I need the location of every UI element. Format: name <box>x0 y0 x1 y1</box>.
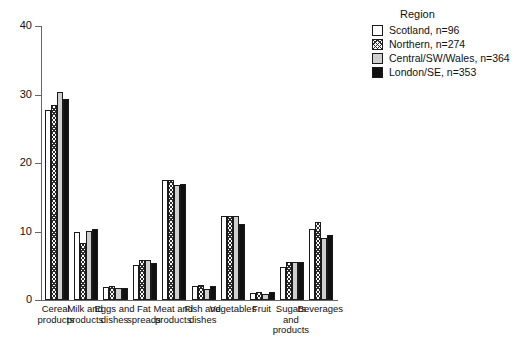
y-tick-label: 10 <box>0 226 32 237</box>
bar-london <box>180 184 186 300</box>
y-tick-label: 40 <box>0 20 32 31</box>
legend-item-central[interactable]: Central/SW/Wales, n=364 <box>372 52 517 64</box>
bar-group <box>309 26 333 300</box>
legend-title: Region <box>400 8 517 21</box>
bar-london <box>210 286 216 300</box>
bar-london <box>298 262 304 300</box>
bar-london <box>239 224 245 300</box>
legend-item-scotland[interactable]: Scotland, n=96 <box>372 24 517 36</box>
legend-swatch-icon <box>372 53 383 64</box>
y-tick-label: 20 <box>0 157 32 168</box>
x-axis-line <box>41 300 338 301</box>
bar-london <box>269 292 275 300</box>
bar-group <box>221 26 245 300</box>
bar-london <box>63 99 69 300</box>
plot-area <box>41 26 335 300</box>
bar-group <box>192 26 216 300</box>
legend-item-northern[interactable]: Northern, n=274 <box>372 38 517 50</box>
legend-label: Northern, n=274 <box>389 38 465 50</box>
legend-swatch-icon <box>372 39 383 50</box>
legend-item-london[interactable]: London/SE, n=353 <box>372 66 517 78</box>
legend-swatch-icon <box>372 67 383 78</box>
legend-label: Scotland, n=96 <box>389 24 459 36</box>
legend-items: Scotland, n=96Northern, n=274Central/SW/… <box>372 24 517 78</box>
bar-london <box>151 263 157 300</box>
bar-group <box>45 26 69 300</box>
bar-london <box>92 229 98 300</box>
bar-group <box>74 26 98 300</box>
bar-group <box>280 26 304 300</box>
y-tick-mark <box>35 300 41 301</box>
bar-group <box>103 26 127 300</box>
bar-group <box>250 26 274 300</box>
bar-chart: 010203040 Cereal productsMilk and produc… <box>0 0 517 344</box>
legend: Region Scotland, n=96Northern, n=274Cent… <box>372 8 517 80</box>
legend-label: Central/SW/Wales, n=364 <box>389 52 510 64</box>
y-tick-label: 0 <box>0 294 32 305</box>
bar-london <box>327 235 333 300</box>
legend-label: London/SE, n=353 <box>389 66 476 78</box>
bar-group <box>162 26 186 300</box>
bar-london <box>122 288 128 300</box>
legend-swatch-icon <box>372 25 383 36</box>
y-tick-label: 30 <box>0 89 32 100</box>
x-tick-label: Beverages <box>298 304 343 315</box>
bar-group <box>133 26 157 300</box>
